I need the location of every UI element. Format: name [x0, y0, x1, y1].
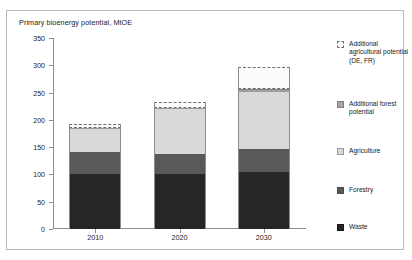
legend-label: Forestry: [349, 186, 409, 194]
x-tick-label-2020: 2020: [150, 233, 210, 242]
y-tick-label: 150: [19, 144, 45, 151]
y-tick-label: 300: [19, 62, 45, 69]
legend-swatch-addforest: [337, 101, 344, 108]
bar-segment-waste[interactable]: [238, 172, 290, 229]
y-axis-line: [53, 38, 54, 229]
bar-segment-agri[interactable]: [154, 108, 206, 154]
legend-label: Additional agricultural potential (DE, F…: [349, 40, 409, 65]
x-axis-labels: 201020202030: [53, 233, 306, 247]
y-tick: [49, 65, 53, 66]
bar-segment-forestry[interactable]: [154, 154, 206, 174]
bar-2020[interactable]: [154, 102, 206, 229]
y-tick-label: 0: [19, 226, 45, 233]
bar-2030[interactable]: [238, 67, 290, 229]
x-tick-label-2010: 2010: [65, 233, 125, 242]
bar-segment-addagri[interactable]: [154, 102, 206, 107]
bar-segment-agri[interactable]: [238, 91, 290, 148]
y-tick: [49, 202, 53, 203]
y-tick: [49, 120, 53, 121]
x-tick-label-2030: 2030: [234, 233, 294, 242]
y-tick-label: 200: [19, 116, 45, 123]
bar-segment-addforest[interactable]: [238, 89, 290, 92]
y-tick: [49, 93, 53, 94]
bar-segment-agri[interactable]: [69, 128, 121, 151]
chart-legend: Additional agricultural potential (DE, F…: [337, 41, 407, 241]
legend-label: Waste: [349, 223, 409, 231]
y-tick-label: 50: [19, 198, 45, 205]
bar-segment-waste[interactable]: [69, 174, 121, 229]
bar-segment-addagri[interactable]: [69, 124, 121, 128]
bar-segment-forestry[interactable]: [238, 149, 290, 172]
chart-frame: Primary bioenergy potential, MtOE 050100…: [6, 10, 404, 250]
y-tick: [49, 174, 53, 175]
chart-title: Primary bioenergy potential, MtOE: [19, 18, 132, 27]
legend-swatch-addagri: [337, 41, 344, 48]
y-tick: [49, 147, 53, 148]
legend-swatch-waste: [337, 224, 344, 231]
y-tick: [49, 229, 53, 230]
bar-segment-addagri[interactable]: [238, 67, 290, 89]
legend-label: Agriculture: [349, 147, 409, 155]
legend-swatch-forestry: [337, 187, 344, 194]
bar-segment-forestry[interactable]: [69, 152, 121, 175]
legend-swatch-agri: [337, 148, 344, 155]
bar-2010[interactable]: [69, 124, 121, 229]
y-tick-label: 350: [19, 35, 45, 42]
y-tick-label: 100: [19, 171, 45, 178]
y-tick-label: 250: [19, 89, 45, 96]
plot-area: [53, 38, 306, 229]
bar-segment-waste[interactable]: [154, 174, 206, 229]
y-tick: [49, 38, 53, 39]
legend-label: Additional forest potential: [349, 100, 409, 117]
y-axis-labels: 050100150200250300350: [15, 38, 45, 229]
